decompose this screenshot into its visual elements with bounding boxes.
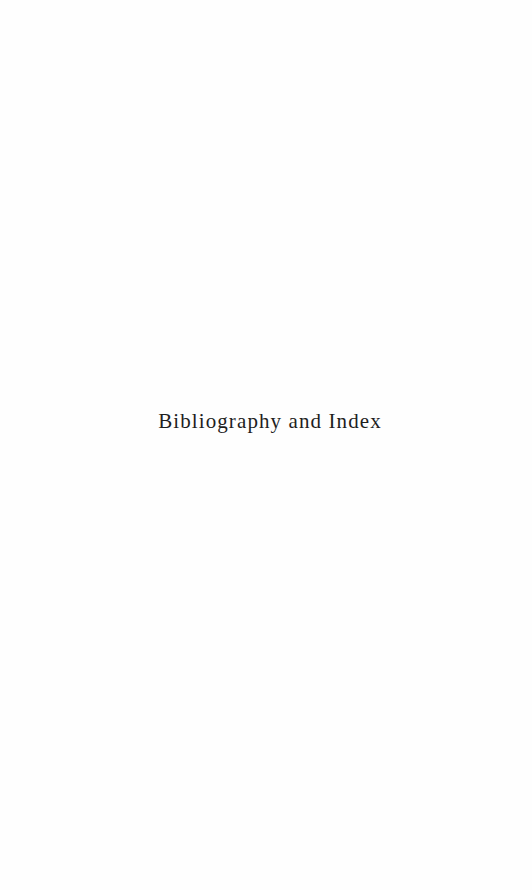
half-title-heading: Bibliography and Index	[0, 408, 532, 434]
book-page: Bibliography and Index	[0, 0, 532, 890]
